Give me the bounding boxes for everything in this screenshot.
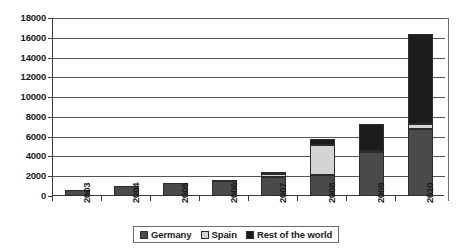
gridline bbox=[53, 77, 445, 78]
y-axis-tick-mark bbox=[48, 18, 52, 19]
bar-segment-rest-of-the-world bbox=[310, 139, 335, 145]
y-axis-tick-label: 14000 bbox=[21, 53, 46, 63]
y-axis-tick-mark bbox=[48, 156, 52, 157]
y-axis-tick-label: 10000 bbox=[21, 92, 46, 102]
x-axis-tick-mark bbox=[395, 196, 396, 201]
legend-label: Spain bbox=[212, 230, 237, 240]
plot-area bbox=[52, 18, 444, 196]
x-axis-tick-label: 2007 bbox=[278, 183, 288, 203]
x-axis-tick-label: 2004 bbox=[131, 183, 141, 203]
x-axis-tick-mark bbox=[199, 196, 200, 201]
legend-item: Spain bbox=[201, 230, 237, 240]
x-axis-tick-label: 2003 bbox=[82, 183, 92, 203]
bar-segment-spain bbox=[359, 151, 384, 153]
x-axis-tick-label: 2009 bbox=[376, 183, 386, 203]
bar-segment-rest-of-the-world bbox=[408, 34, 433, 124]
x-axis-tick-mark bbox=[297, 196, 298, 201]
legend-swatch-icon bbox=[246, 231, 254, 239]
bar-chart: 0200040006000800010000120001400016000180… bbox=[0, 0, 463, 251]
bar-stack bbox=[65, 18, 90, 196]
legend-item: Rest of the world bbox=[246, 230, 332, 240]
y-axis-tick-label: 6000 bbox=[26, 132, 46, 142]
legend-label: Rest of the world bbox=[257, 230, 332, 240]
legend-item: Germany bbox=[140, 230, 192, 240]
gridline bbox=[53, 97, 445, 98]
x-axis-tick-label: 2010 bbox=[425, 183, 435, 203]
x-axis-tick-label: 2005 bbox=[180, 183, 190, 203]
x-axis-tick-mark bbox=[52, 196, 53, 201]
bar-segment-spain bbox=[310, 145, 335, 176]
bar-stack bbox=[212, 18, 237, 196]
bar-segment-rest-of-the-world bbox=[261, 172, 286, 174]
legend-swatch-icon bbox=[201, 231, 209, 239]
y-axis-tick-mark bbox=[48, 176, 52, 177]
x-axis-tick-label: 2008 bbox=[327, 183, 337, 203]
bar-stack bbox=[114, 18, 139, 196]
y-axis-tick-label: 0 bbox=[41, 191, 46, 201]
y-axis-tick-label: 2000 bbox=[26, 171, 46, 181]
gridline bbox=[53, 156, 445, 157]
bar-stack bbox=[261, 18, 286, 196]
gridline bbox=[53, 176, 445, 177]
gridline bbox=[53, 137, 445, 138]
legend-swatch-icon bbox=[140, 231, 148, 239]
y-axis-tick-label: 4000 bbox=[26, 151, 46, 161]
chart-legend: GermanySpainRest of the world bbox=[133, 226, 339, 243]
y-axis-tick-mark bbox=[48, 38, 52, 39]
y-axis-tick-label: 8000 bbox=[26, 112, 46, 122]
bar-segment-spain bbox=[261, 174, 286, 177]
gridline bbox=[53, 18, 445, 19]
x-axis-tick-mark bbox=[248, 196, 249, 201]
bar-stack bbox=[408, 18, 433, 196]
y-axis-tick-mark bbox=[48, 97, 52, 98]
y-axis-tick-mark bbox=[48, 58, 52, 59]
bar-stack bbox=[310, 18, 335, 196]
gridline bbox=[53, 117, 445, 118]
x-axis-tick-mark bbox=[101, 196, 102, 201]
gridline bbox=[53, 58, 445, 59]
legend-label: Germany bbox=[151, 230, 192, 240]
y-axis-tick-mark bbox=[48, 77, 52, 78]
x-axis-tick-label: 2006 bbox=[229, 183, 239, 203]
y-axis-tick-label: 16000 bbox=[21, 33, 46, 43]
y-axis-tick-label: 18000 bbox=[21, 13, 46, 23]
bar-stack bbox=[359, 18, 384, 196]
bar-segment-spain bbox=[408, 124, 433, 129]
y-axis-tick-label: 12000 bbox=[21, 72, 46, 82]
x-axis-tick-mark bbox=[346, 196, 347, 201]
y-axis-tick-mark bbox=[48, 137, 52, 138]
gridline bbox=[53, 38, 445, 39]
x-axis-tick-mark bbox=[150, 196, 151, 201]
bar-stack bbox=[163, 18, 188, 196]
y-axis-tick-mark bbox=[48, 117, 52, 118]
bar-segment-rest-of-the-world bbox=[359, 124, 384, 151]
